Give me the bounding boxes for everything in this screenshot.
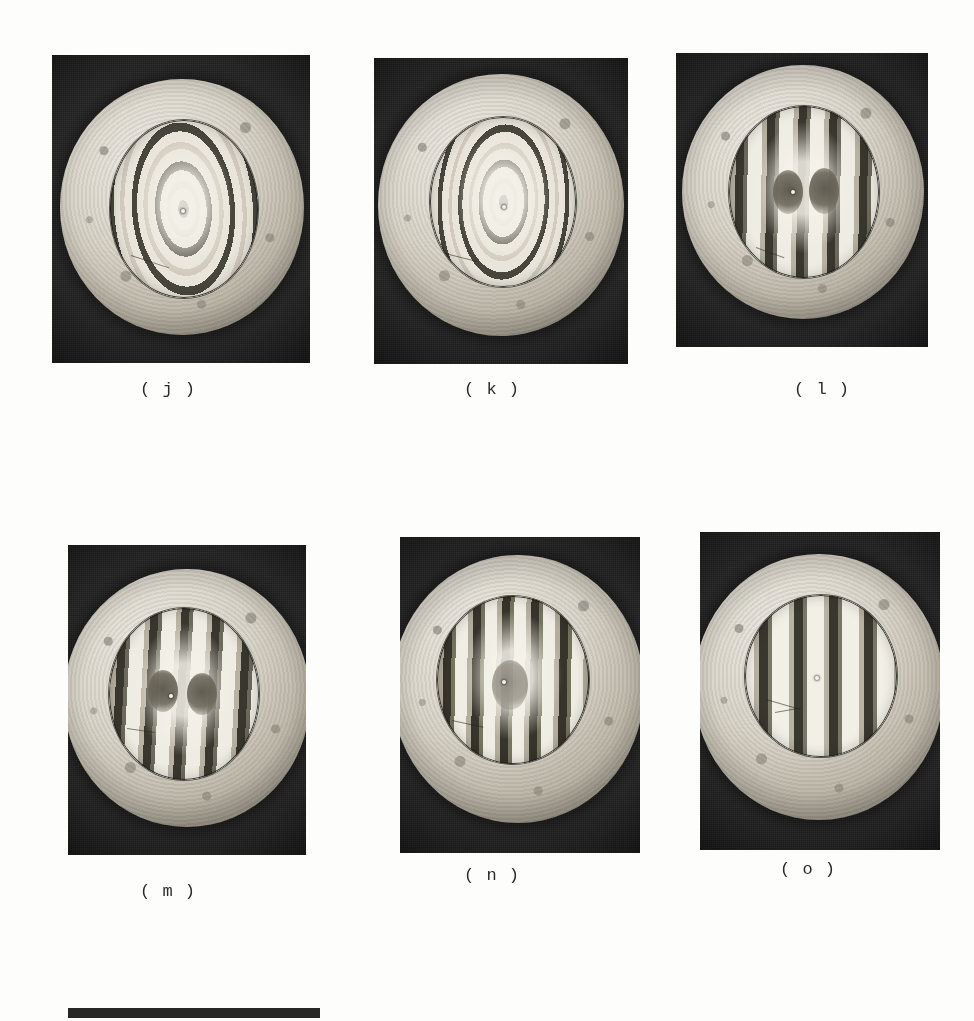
panel-caption-m: ( m ) (118, 882, 218, 901)
specimen-l (728, 105, 880, 279)
specimen-eye-left-l (773, 170, 803, 214)
fringe-bow-l (728, 105, 880, 279)
panel-m[interactable] (68, 545, 306, 855)
panel-caption-o: ( o ) (758, 860, 858, 879)
specimen-core-point-l (791, 190, 795, 194)
specimen-o (744, 594, 898, 758)
specimen-eye-right-l (809, 168, 839, 214)
fringe-field-o (744, 594, 898, 758)
panel-j[interactable] (52, 55, 310, 363)
panel-l[interactable] (676, 53, 928, 347)
specimen-eye-left-m (148, 670, 178, 712)
specimen-m (108, 607, 260, 781)
specimen-j (109, 119, 259, 299)
panel-caption-l: ( l ) (772, 380, 872, 399)
panel-caption-j: ( j ) (118, 380, 218, 399)
fringe-vertical-o (744, 594, 898, 758)
specimen-k (429, 116, 577, 288)
specimen-core-point-m (169, 694, 173, 698)
panel-o[interactable] (700, 532, 940, 850)
specimen-eye-center-n (492, 660, 528, 710)
panel-caption-k: ( k ) (442, 380, 542, 399)
fringe-field-k (429, 116, 577, 288)
specimen-core-point-o (815, 676, 819, 680)
specimen-core-point-j (181, 209, 185, 213)
fringe-bow-m (108, 607, 260, 781)
panel-caption-n: ( n ) (442, 866, 542, 885)
figure-sheet: ( j ) ( k ) (0, 0, 974, 1021)
fringe-field-m (108, 607, 260, 781)
panel-k[interactable] (374, 58, 628, 364)
fringe-bow-k (429, 116, 577, 288)
panel-n[interactable] (400, 537, 640, 853)
fringe-field-l (728, 105, 880, 279)
specimen-n (436, 595, 590, 765)
scale-bar (68, 1008, 320, 1018)
